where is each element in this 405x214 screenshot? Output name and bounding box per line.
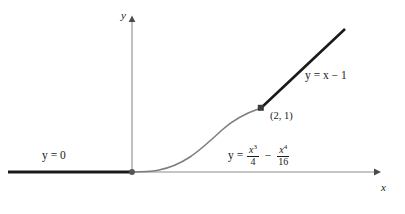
curve-equation-prefix: y = [228, 149, 243, 161]
point-2-1-marker [258, 105, 264, 111]
y-axis-arrowhead [129, 16, 136, 23]
curve-term-1-fraction: x3 4 [247, 145, 259, 169]
y-equals-zero-label: y = 0 [42, 150, 66, 162]
point-coordinate-label: (2, 1) [270, 111, 293, 122]
curve-term-1-numerator: x3 [247, 145, 259, 157]
curve-term-2-fraction: x4 16 [277, 145, 289, 169]
function-graph-figure: y x y = 0 y = x − 1 (2, 1) y = x3 4 − x4… [0, 0, 405, 214]
curve-equation-operator: − [263, 149, 274, 161]
origin-dot-marker [129, 169, 135, 175]
y-axis-label: y [121, 10, 126, 21]
x-axis-arrowhead [374, 169, 381, 176]
line-equation-label: y = x − 1 [305, 70, 347, 82]
curve-equation-label: y = x3 4 − x4 16 [228, 145, 290, 169]
plot-canvas [0, 0, 405, 214]
x-axis-label: x [381, 182, 386, 193]
curve-term-2-denominator: 16 [277, 157, 289, 168]
curve-term-1-denominator: 4 [247, 157, 259, 168]
curve-term-2-numerator: x4 [277, 145, 289, 157]
